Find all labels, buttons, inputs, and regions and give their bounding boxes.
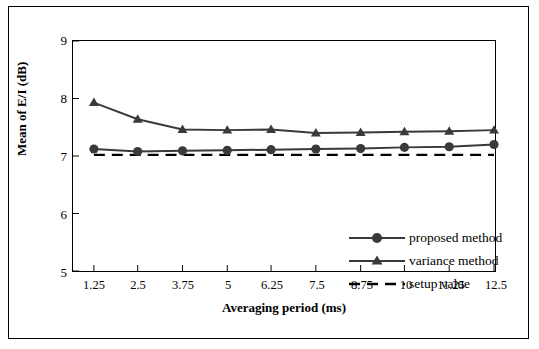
x-tick-label: 2.5 — [130, 278, 146, 293]
y-tick-label: 5 — [61, 265, 68, 281]
legend-key-dashed-line-icon — [347, 275, 409, 293]
x-tick-label: 1.25 — [83, 278, 105, 293]
x-tick-label: 5 — [225, 278, 231, 293]
x-tick-label: 7.5 — [309, 278, 325, 293]
legend-item-variance-method: variance method — [347, 249, 537, 272]
series-variance-method-line — [94, 103, 494, 133]
x-axis-label: Averaging period (ms) — [72, 300, 496, 316]
legend-key-circle-line-icon — [347, 229, 409, 247]
figure: 5 6 7 8 9 1.25 2.5 3.75 5 6.25 7.5 8.75 … — [0, 0, 539, 349]
y-tick-label: 6 — [61, 207, 68, 223]
legend-item-setup-value: setup value — [347, 272, 537, 295]
y-tick-label: 9 — [61, 33, 68, 49]
y-tick-label: 7 — [61, 149, 68, 165]
x-tick-label: 3.75 — [172, 278, 194, 293]
x-tick-label: 6.25 — [261, 278, 283, 293]
legend-label: variance method — [409, 253, 499, 269]
legend-label: proposed method — [409, 230, 502, 246]
y-tick-label: 8 — [61, 91, 68, 107]
y-axis-ticks — [73, 41, 79, 271]
legend-item-proposed-method: proposed method — [347, 226, 537, 249]
series-proposed-method-line — [94, 145, 494, 152]
plot-area: 5 6 7 8 9 1.25 2.5 3.75 5 6.25 7.5 8.75 … — [72, 40, 496, 272]
legend-key-triangle-line-icon — [347, 252, 409, 270]
legend-label: setup value — [409, 276, 470, 292]
chart-legend: proposed method variance method setup — [347, 226, 537, 295]
y-axis-label: Mean of E/I (dB) — [14, 62, 30, 156]
series-proposed-method-markers — [89, 140, 498, 156]
